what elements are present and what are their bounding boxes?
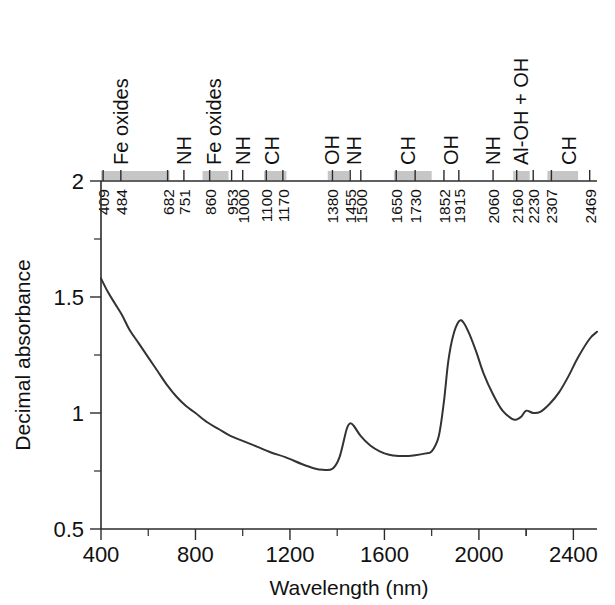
top-axis-tick-label: 1380 xyxy=(324,189,341,224)
assignment-label: CH xyxy=(261,136,283,165)
x-axis-tick-label: 1200 xyxy=(265,542,314,567)
absorption-band xyxy=(203,171,229,180)
assignment-label: CH xyxy=(397,136,419,165)
top-axis-tick-label: 2060 xyxy=(485,189,502,224)
top-axis-tick-label: 682 xyxy=(160,189,177,215)
assignment-label: Al-OH + OH xyxy=(510,58,532,165)
top-axis-tick-label: 1000 xyxy=(235,189,252,224)
top-axis-tick-label: 409 xyxy=(95,189,112,215)
top-axis-tick-label: 1170 xyxy=(275,189,292,223)
assignment-label: OH xyxy=(321,135,343,165)
absorption-band xyxy=(394,171,432,180)
top-axis-tick-label: 2160 xyxy=(509,189,526,224)
y-axis-tick-label: 2 xyxy=(72,169,84,194)
assignment-label: NH xyxy=(343,136,365,165)
x-axis-tick-label: 400 xyxy=(83,542,120,567)
top-axis-tick-label: 1915 xyxy=(451,189,468,223)
top-axis-tick-label: 860 xyxy=(202,189,219,215)
y-axis-tick-label: 0.5 xyxy=(53,517,84,542)
x-axis-tick-label: 800 xyxy=(177,542,214,567)
assignment-label: NH xyxy=(482,136,504,165)
assignment-label: Fe oxides xyxy=(203,78,225,165)
x-axis-tick-label: 2400 xyxy=(549,542,598,567)
top-axis-tick-label: 2469 xyxy=(582,189,599,223)
absorption-band xyxy=(328,171,349,180)
top-axis-tick-label: 2230 xyxy=(525,189,542,224)
x-axis-tick-label: 2000 xyxy=(454,542,503,567)
absorption-band xyxy=(101,171,169,180)
top-axis-tick-label: 1100 xyxy=(258,189,275,223)
assignment-label: CH xyxy=(558,136,580,165)
top-axis-tick-label: 1650 xyxy=(388,189,405,224)
assignment-label: NH xyxy=(173,136,195,165)
absorbance-spectrum-chart: 4094846827518609531000110011701380145515… xyxy=(0,0,615,605)
top-axis-tick-label: 751 xyxy=(176,189,193,215)
y-axis-title: Decimal absorbance xyxy=(11,259,34,450)
x-axis-title: Wavelength (nm) xyxy=(269,576,428,599)
assignment-label: NH xyxy=(232,136,254,165)
spectrum-figure: 4094846827518609531000110011701380145515… xyxy=(0,0,615,605)
absorption-band xyxy=(513,171,530,180)
assignment-label: OH xyxy=(440,135,462,165)
top-axis-tick-label: 1500 xyxy=(353,189,370,224)
top-axis-tick-label: 2307 xyxy=(543,189,560,223)
y-axis-tick-label: 1 xyxy=(72,401,84,426)
assignment-label: Fe oxides xyxy=(110,78,132,165)
x-axis-tick-label: 1600 xyxy=(360,542,409,567)
top-axis-tick-label: 484 xyxy=(113,189,130,215)
y-axis-tick-label: 1.5 xyxy=(53,285,84,310)
top-axis-tick-label: 1730 xyxy=(407,189,424,224)
